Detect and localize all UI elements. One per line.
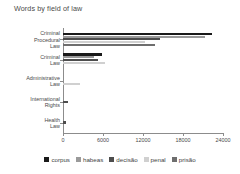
bar-group: AdministrativeLaw (63, 71, 223, 92)
y-axis-label: AdministrativeLaw (26, 75, 60, 87)
bar-group: CriminalProceduralLaw (63, 29, 223, 50)
x-axis-tick-label: 12000 (136, 137, 151, 143)
legend-label: corpus (51, 156, 70, 163)
bar-group: InternationalRights (63, 91, 223, 112)
x-axis-tick (223, 133, 224, 136)
bar-row (63, 85, 223, 87)
legend-swatch-icon (44, 157, 49, 162)
x-axis-tick-label: 24000 (216, 137, 231, 143)
x-axis-tick-label: 18000 (176, 137, 191, 143)
legend-swatch-icon (144, 157, 149, 162)
bar-group: HealthLaw (63, 112, 223, 133)
x-axis-tick (183, 133, 184, 136)
legend-item[interactable]: decisão (109, 156, 137, 163)
bar-row (63, 44, 223, 46)
y-axis-label: CriminalLaw (40, 54, 60, 66)
x-axis-tick (63, 133, 64, 136)
x-axis-tick (103, 133, 104, 136)
legend-item[interactable]: penal (144, 156, 166, 163)
legend-swatch-icon (109, 157, 114, 162)
legend-item[interactable]: prisão (172, 156, 196, 163)
legend-label: prisão (179, 156, 196, 163)
plot-area: CriminalProceduralLawCriminalLawAdminist… (63, 29, 223, 133)
chart-title: Words by field of law (14, 4, 82, 13)
legend-item[interactable]: habeas (76, 156, 103, 163)
x-axis-tick-label: 6000 (97, 137, 109, 143)
legend-item[interactable]: corpus (44, 156, 70, 163)
x-axis-tick (143, 133, 144, 136)
chart-figure: Words by field of law CriminalProcedural… (0, 0, 240, 174)
bar-row (63, 65, 223, 67)
x-axis-tick-label: 0 (62, 137, 65, 143)
legend-swatch-icon (76, 157, 81, 162)
bar-row (63, 127, 223, 129)
y-axis-label: CriminalProceduralLaw (34, 30, 60, 49)
y-axis-label: HealthLaw (44, 116, 60, 128)
y-axis-label: InternationalRights (30, 96, 60, 108)
legend-label: decisão (116, 156, 137, 163)
chart-legend: corpushabeasdecisãopenalprisão (0, 156, 240, 163)
bar[interactable] (63, 44, 155, 46)
legend-label: penal (151, 156, 166, 163)
legend-label: habeas (83, 156, 103, 163)
bar-row (63, 106, 223, 108)
legend-swatch-icon (172, 157, 177, 162)
bar-group: CriminalLaw (63, 50, 223, 71)
